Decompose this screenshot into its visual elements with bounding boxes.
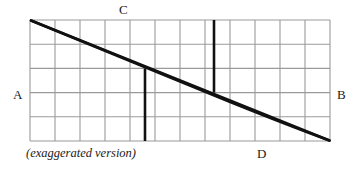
- point-label-a: A: [13, 88, 22, 101]
- figure-caption: (exaggerated version): [26, 147, 136, 160]
- point-label-d: D: [257, 147, 266, 160]
- figure-container: A B C D (exaggerated version): [0, 0, 360, 171]
- point-label-c: C: [119, 3, 128, 16]
- point-label-b: B: [337, 88, 346, 101]
